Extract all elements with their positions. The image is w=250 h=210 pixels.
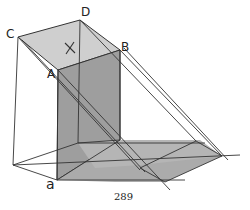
label-D: D [81, 6, 90, 18]
label-C: C [6, 28, 14, 40]
label-A: A [47, 68, 55, 80]
shadow-diagram [0, 0, 250, 210]
page-number: 289 [114, 192, 133, 202]
diagram-canvas: C D B A a 289 [0, 0, 250, 210]
label-B: B [121, 41, 129, 53]
label-a: a [46, 177, 55, 191]
